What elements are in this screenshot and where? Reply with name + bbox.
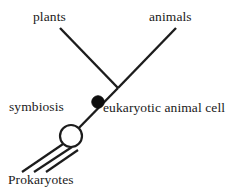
symbiosis-event-node: [60, 125, 82, 147]
label-symbiosis: symbiosis: [9, 100, 64, 114]
endosymbiosis-diagram: plants animals symbiosis eukaryotic anim…: [0, 0, 230, 191]
animals-branch-line: [118, 28, 176, 88]
prokaryote-lineage-line-1: [22, 142, 66, 172]
label-eukaryotic-animal-cell: eukaryotic animal cell: [103, 101, 225, 115]
label-animals: animals: [149, 10, 192, 24]
label-plants: plants: [33, 10, 66, 24]
diagram-canvas: [0, 0, 230, 191]
plants-branch-line: [60, 28, 118, 88]
label-prokaryotes: Prokaryotes: [8, 173, 74, 187]
